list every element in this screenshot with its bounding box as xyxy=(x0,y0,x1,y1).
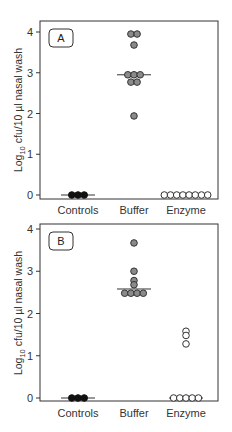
y-axis-title: Log10 cfu/10 µl nasal wash xyxy=(12,251,27,375)
data-point xyxy=(131,71,138,78)
data-point xyxy=(134,79,141,86)
data-point xyxy=(180,192,187,199)
y-tick-label: 1 xyxy=(27,148,33,160)
data-point xyxy=(131,268,138,275)
data-point xyxy=(128,31,135,38)
data-point xyxy=(198,192,205,199)
y-tick-label: 3 xyxy=(27,265,33,277)
data-point xyxy=(140,290,147,297)
data-point xyxy=(170,395,177,402)
data-point xyxy=(131,42,138,49)
plot-frame xyxy=(40,224,218,401)
x-category-label: Controls xyxy=(58,407,99,419)
data-point xyxy=(131,240,138,247)
data-point xyxy=(131,113,138,120)
x-category-label: Buffer xyxy=(119,407,148,419)
panel-label: B xyxy=(57,235,64,247)
plot-frame xyxy=(40,21,218,199)
data-point xyxy=(69,395,76,402)
data-point xyxy=(177,395,184,402)
x-category-label: Buffer xyxy=(119,204,148,216)
y-axis-title: Log10 cfu/10 µl nasal wash xyxy=(12,48,27,172)
y-tick-label: 2 xyxy=(27,308,33,320)
data-point xyxy=(167,192,174,199)
data-point xyxy=(81,395,88,402)
data-point xyxy=(173,192,180,199)
data-point xyxy=(75,192,82,199)
data-point xyxy=(134,31,141,38)
data-point xyxy=(186,192,193,199)
data-point xyxy=(125,71,132,78)
data-point xyxy=(69,192,76,199)
data-point xyxy=(131,281,138,288)
data-point xyxy=(183,395,190,402)
data-point xyxy=(195,395,202,402)
data-point xyxy=(128,79,135,86)
x-category-label: Enzyme xyxy=(166,204,206,216)
x-category-label: Controls xyxy=(58,204,99,216)
y-tick-label: 2 xyxy=(27,108,33,120)
figure: A Log10 cfu/10 µl nasal wash 01234 Contr… xyxy=(0,0,232,432)
data-point xyxy=(189,395,196,402)
data-point xyxy=(183,341,190,348)
panel-label: A xyxy=(57,32,65,44)
y-tick-label: 0 xyxy=(27,189,33,201)
y-tick-label: 1 xyxy=(27,350,33,362)
data-point xyxy=(161,192,168,199)
y-tick-label: 0 xyxy=(27,392,33,404)
data-point xyxy=(128,290,135,297)
data-point xyxy=(75,395,82,402)
y-tick-label: 4 xyxy=(27,223,33,235)
x-category-label: Enzyme xyxy=(166,407,206,419)
data-point xyxy=(134,290,141,297)
y-tick-label: 3 xyxy=(27,67,33,79)
data-point xyxy=(121,290,128,297)
data-point xyxy=(137,71,144,78)
data-point xyxy=(183,332,190,339)
y-tick-label: 4 xyxy=(27,26,33,38)
data-point xyxy=(192,192,199,199)
data-point xyxy=(81,192,88,199)
panel-b: B Log10 cfu/10 µl nasal wash 01234 Contr… xyxy=(12,223,218,419)
data-point xyxy=(204,192,211,199)
panel-a: A Log10 cfu/10 µl nasal wash 01234 Contr… xyxy=(12,21,218,216)
